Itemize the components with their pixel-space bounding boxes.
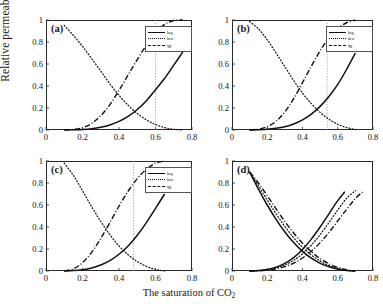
panel-label: (a) — [51, 23, 63, 34]
legend-label: krg — [167, 171, 173, 176]
legend-label: krg — [348, 30, 354, 35]
legend-item: qg — [148, 184, 189, 190]
legend-line-sample — [148, 173, 165, 174]
legend-line-sample — [329, 38, 346, 39]
legend-label: krg — [167, 30, 173, 35]
legend-line-sample — [148, 45, 165, 46]
legend-item: krw — [148, 36, 189, 42]
legend-line-sample — [329, 32, 346, 33]
legend-line-sample — [148, 179, 165, 180]
legend: krgkrwqg — [326, 26, 373, 52]
curve-rising-solid — [250, 192, 345, 271]
legend-item: krg — [329, 30, 370, 36]
legend-line-sample — [148, 32, 165, 33]
legend-item: krg — [148, 171, 189, 177]
curve-falling-dotted — [250, 172, 356, 271]
legend-line-sample — [148, 186, 165, 187]
legend-label: krw — [348, 36, 355, 41]
curve-falling-dashdot — [250, 172, 356, 271]
legend: krgkrwqg — [145, 26, 192, 52]
legend-line-sample — [148, 38, 165, 39]
legend-label: krw — [167, 36, 174, 41]
legend: krgkrwqg — [145, 167, 192, 193]
legend-label: qg — [348, 43, 352, 48]
panel-label: (b) — [237, 23, 250, 34]
panel-label: (c) — [51, 164, 63, 175]
curve-falling-solid — [250, 172, 356, 271]
panel-label: (d) — [237, 164, 250, 175]
legend-item: krg — [148, 30, 189, 36]
legend-item: qg — [329, 43, 370, 49]
legend-line-sample — [329, 45, 346, 46]
legend-label: qg — [167, 184, 171, 189]
legend-item: krw — [329, 36, 370, 42]
legend-label: krw — [167, 177, 174, 182]
legend-label: qg — [167, 43, 171, 48]
legend-item: qg — [148, 43, 189, 49]
legend-item: krw — [148, 177, 189, 183]
